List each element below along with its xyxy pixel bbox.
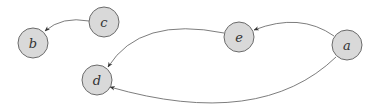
edge-a-to-d bbox=[110, 57, 336, 103]
node-a[interactable]: a bbox=[332, 30, 362, 60]
graph-svg: a b c d e bbox=[0, 0, 382, 112]
node-a-label: a bbox=[343, 38, 351, 53]
node-d-label: d bbox=[93, 73, 101, 88]
node-e[interactable]: e bbox=[224, 22, 254, 52]
node-e-label: e bbox=[235, 30, 243, 45]
node-c-label: c bbox=[100, 15, 108, 30]
edge-c-to-b bbox=[45, 20, 89, 31]
edge-e-to-d bbox=[108, 29, 224, 67]
edge-a-to-e bbox=[254, 22, 334, 36]
node-b[interactable]: b bbox=[18, 28, 48, 58]
node-c[interactable]: c bbox=[89, 7, 119, 37]
node-d[interactable]: d bbox=[82, 65, 112, 95]
graph-canvas: a b c d e bbox=[0, 0, 382, 112]
node-b-label: b bbox=[29, 36, 37, 51]
